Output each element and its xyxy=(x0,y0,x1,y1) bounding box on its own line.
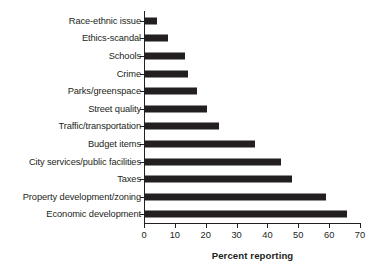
bar xyxy=(145,158,281,165)
category-label: Street quality xyxy=(0,104,141,114)
category-tick xyxy=(140,21,144,22)
x-tick-label: 30 xyxy=(222,230,252,241)
bar-chart: Race-ethnic issueEthics-scandalSchoolsCr… xyxy=(0,0,373,272)
bar-row: Economic development xyxy=(0,206,373,224)
bar-row: Parks/greenspace xyxy=(0,82,373,100)
bar-row: Traffic/transportation xyxy=(0,118,373,136)
x-tick xyxy=(360,223,361,228)
bar-track xyxy=(145,193,326,200)
x-axis-title: Percent reporting xyxy=(144,250,361,261)
bar-track xyxy=(145,123,219,130)
bar xyxy=(145,140,255,147)
category-label: Parks/greenspace xyxy=(0,86,141,96)
bar xyxy=(145,105,207,112)
bar-row: Ethics-scandal xyxy=(0,30,373,48)
x-tick-label: 50 xyxy=(283,230,313,241)
x-tick-label: 10 xyxy=(160,230,190,241)
category-label: Economic development xyxy=(0,209,141,219)
bar-track xyxy=(145,105,207,112)
bar-row: Race-ethnic issue xyxy=(0,12,373,30)
category-label: Property development/zoning xyxy=(0,192,141,202)
bar xyxy=(145,35,168,42)
category-label: Schools xyxy=(0,51,141,61)
category-tick xyxy=(140,126,144,127)
category-tick xyxy=(140,56,144,57)
x-tick xyxy=(329,223,330,228)
category-tick xyxy=(140,179,144,180)
bar xyxy=(145,52,185,59)
bar xyxy=(145,88,197,95)
bar-row: Crime xyxy=(0,65,373,83)
bar-track xyxy=(145,211,347,218)
x-tick xyxy=(175,223,176,228)
bar-row: Budget items xyxy=(0,135,373,153)
bar-track xyxy=(145,70,188,77)
x-tick xyxy=(144,223,145,228)
bar-row: Property development/zoning xyxy=(0,188,373,206)
category-tick xyxy=(140,109,144,110)
bar xyxy=(145,176,292,183)
x-tick-label: 60 xyxy=(314,230,344,241)
bar-row: Street quality xyxy=(0,100,373,118)
category-label: City services/public facilities xyxy=(0,157,141,167)
bar-row: City services/public facilities xyxy=(0,153,373,171)
category-label: Traffic/transportation xyxy=(0,121,141,131)
bar-track xyxy=(145,140,255,147)
category-tick xyxy=(140,144,144,145)
category-label: Crime xyxy=(0,69,141,79)
category-label: Taxes xyxy=(0,174,141,184)
bar-track xyxy=(145,52,185,59)
bar-row: Taxes xyxy=(0,170,373,188)
x-tick-label: 70 xyxy=(345,230,373,241)
bar-track xyxy=(145,88,197,95)
bar xyxy=(145,211,347,218)
x-tick xyxy=(206,223,207,228)
bar-track xyxy=(145,17,157,24)
category-label: Race-ethnic issue xyxy=(0,16,141,26)
category-tick xyxy=(140,197,144,198)
bar xyxy=(145,193,326,200)
x-tick-label: 0 xyxy=(129,230,159,241)
x-axis-ticks: 010203040506070 xyxy=(0,223,373,253)
x-tick-label: 40 xyxy=(252,230,282,241)
bar-rows: Race-ethnic issueEthics-scandalSchoolsCr… xyxy=(0,0,373,212)
category-tick xyxy=(140,91,144,92)
category-tick xyxy=(140,74,144,75)
x-tick xyxy=(267,223,268,228)
bar xyxy=(145,17,157,24)
bar-track xyxy=(145,176,292,183)
category-tick xyxy=(140,38,144,39)
bar xyxy=(145,123,219,130)
x-tick-label: 20 xyxy=(191,230,221,241)
bar-track xyxy=(145,158,281,165)
bar xyxy=(145,70,188,77)
x-tick xyxy=(298,223,299,228)
bar-row: Schools xyxy=(0,47,373,65)
category-label: Budget items xyxy=(0,139,141,149)
category-label: Ethics-scandal xyxy=(0,33,141,43)
category-tick xyxy=(140,214,144,215)
category-tick xyxy=(140,162,144,163)
x-tick xyxy=(237,223,238,228)
bar-track xyxy=(145,35,168,42)
